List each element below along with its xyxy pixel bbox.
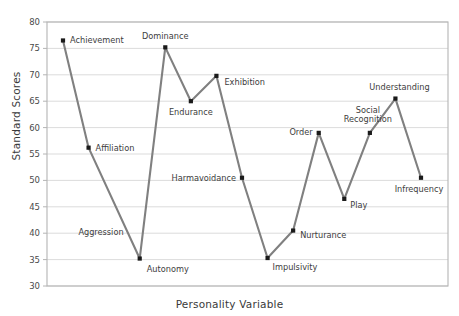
personality-profile-chart: Standard Scores Personality Variable 303… bbox=[0, 0, 459, 316]
data-point-marker bbox=[393, 96, 397, 100]
point-label-exhibition: Exhibition bbox=[224, 77, 265, 87]
point-label-play: Play bbox=[350, 200, 367, 210]
y-tick-label: 75 bbox=[29, 43, 40, 53]
data-point-marker bbox=[342, 197, 346, 201]
y-tick-label: 55 bbox=[29, 149, 40, 159]
gridlines bbox=[47, 22, 448, 286]
point-label-aggression: Aggression bbox=[78, 227, 123, 237]
data-point-marker bbox=[214, 74, 218, 78]
point-label-impulsivity: Impulsivity bbox=[273, 262, 318, 272]
y-axis-tick-labels: 3035404550556065707580 bbox=[29, 17, 47, 291]
point-label-autonomy: Autonomy bbox=[147, 264, 189, 274]
point-label-harmavoidance: Harmavoidance bbox=[172, 173, 236, 183]
data-point-marker bbox=[61, 38, 65, 42]
y-tick-label: 40 bbox=[29, 228, 40, 238]
data-point-marker bbox=[189, 99, 193, 103]
y-tick-label: 30 bbox=[29, 281, 40, 291]
y-axis-title: Standard Scores bbox=[10, 56, 22, 176]
data-point-marker bbox=[317, 131, 321, 135]
point-label-social-recognition: Recognition bbox=[344, 114, 392, 124]
y-tick-label: 45 bbox=[29, 202, 40, 212]
point-label-nurturance: Nurturance bbox=[300, 230, 346, 240]
data-point-labels: AchievementAffiliationAggressionAutonomy… bbox=[70, 31, 443, 273]
data-point-marker bbox=[163, 45, 167, 49]
y-tick-label: 70 bbox=[29, 70, 40, 80]
y-tick-label: 65 bbox=[29, 96, 40, 106]
point-label-understanding: Understanding bbox=[369, 82, 429, 92]
data-point-marker bbox=[138, 256, 142, 260]
y-tick-label: 50 bbox=[29, 175, 40, 185]
y-tick-label: 35 bbox=[29, 255, 40, 265]
point-label-order: Order bbox=[289, 127, 313, 137]
plot-area: 3035404550556065707580 AchievementAffili… bbox=[0, 0, 459, 316]
data-point-marker bbox=[265, 256, 269, 260]
data-point-marker bbox=[368, 131, 372, 135]
data-point-marker bbox=[86, 146, 90, 150]
data-point-marker bbox=[419, 176, 423, 180]
data-point-marker bbox=[240, 176, 244, 180]
point-label-achievement: Achievement bbox=[70, 35, 125, 45]
y-tick-label: 60 bbox=[29, 123, 40, 133]
point-label-affiliation: Affiliation bbox=[96, 143, 135, 153]
point-label-endurance: Endurance bbox=[169, 107, 213, 117]
point-label-social-recognition: Social bbox=[356, 105, 380, 115]
y-tick-label: 80 bbox=[29, 17, 40, 27]
data-point-marker bbox=[291, 228, 295, 232]
point-label-dominance: Dominance bbox=[142, 31, 189, 41]
point-label-infrequency: Infrequency bbox=[395, 184, 444, 194]
x-axis-title: Personality Variable bbox=[0, 298, 459, 310]
